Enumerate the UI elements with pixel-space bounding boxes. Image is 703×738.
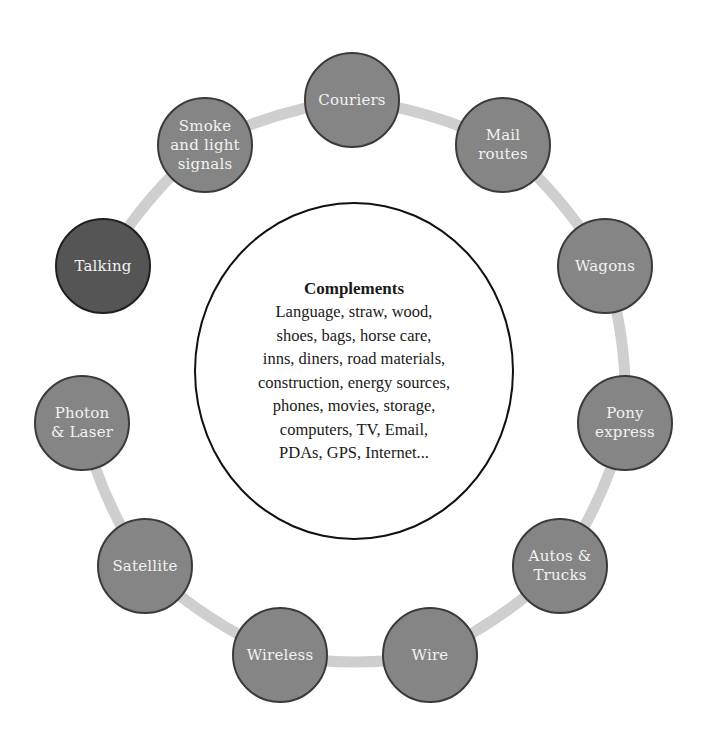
complements-title: Complements [304, 277, 404, 300]
node-photon-laser: Photon & Laser [34, 375, 130, 471]
node-wire: Wire [382, 607, 478, 703]
node-mail-routes: Mail routes [455, 97, 551, 193]
node-satellite: Satellite [97, 518, 193, 614]
node-pony-express: Pony express [577, 375, 673, 471]
node-autos-trucks: Autos & Trucks [512, 518, 608, 614]
node-wagons: Wagons [557, 218, 653, 314]
complements-list: Language, straw, wood, shoes, bags, hors… [258, 300, 450, 465]
node-wireless: Wireless [232, 607, 328, 703]
complements-center-circle: Complements Language, straw, wood, shoes… [194, 202, 514, 540]
node-smoke-light-signals: Smoke and light signals [157, 97, 253, 193]
node-couriers: Couriers [304, 52, 400, 148]
node-talking: Talking [55, 218, 151, 314]
complements-cycle-diagram: Complements Language, straw, wood, shoes… [0, 0, 703, 738]
